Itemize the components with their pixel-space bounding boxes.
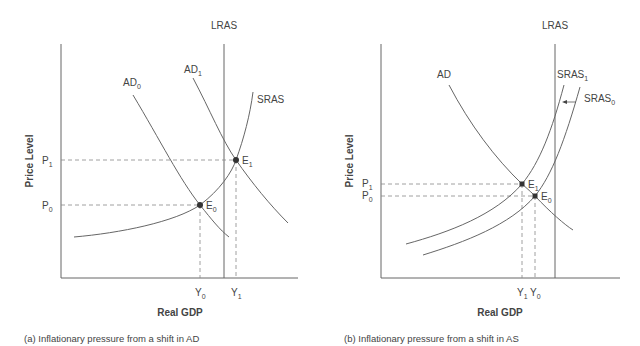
y1-tick-a: Y1 — [231, 287, 242, 300]
panel-a: LRAS AD0 AD1 SRAS E1 E0 P1 P0 Y0 Y1 Real… — [24, 20, 298, 318]
lras-label-a: LRAS — [211, 20, 237, 31]
caption-b: (b) Inflationary pressure from a shift i… — [344, 333, 519, 344]
e1-point-a — [233, 157, 239, 163]
shift-arrow-icon — [562, 100, 567, 104]
x-axis-title-a: Real GDP — [157, 307, 203, 318]
y-axis-title-b: Price Level — [344, 134, 355, 187]
e1-point-b — [520, 182, 525, 187]
caption-a: (a) Inflationary pressure from a shift i… — [24, 333, 199, 344]
sras-label-a: SRAS — [257, 94, 285, 105]
p0-tick-b: P0 — [362, 190, 373, 203]
sras1-curve-b — [406, 85, 564, 244]
ad0-label: AD0 — [123, 77, 141, 90]
x-axis-title-b: Real GDP — [477, 307, 523, 318]
e1-label-b: E1 — [528, 179, 539, 192]
panel-b: LRAS AD SRAS1 SRAS0 E1 E0 P1 P0 Y1 Y0 Re… — [344, 20, 620, 318]
sras-curve-a — [74, 92, 253, 237]
e0-point-b — [533, 194, 538, 199]
sras0-label: SRAS0 — [584, 93, 615, 106]
p0-tick-a: P0 — [42, 200, 53, 213]
y0-tick-b: Y0 — [530, 287, 541, 300]
lras-label-b: LRAS — [542, 20, 568, 31]
y1-tick-b: Y1 — [517, 287, 528, 300]
y0-tick-a: Y0 — [195, 287, 206, 300]
e0-point-a — [197, 202, 203, 208]
p1-tick-a: P1 — [42, 155, 53, 168]
e0-label-b: E0 — [541, 191, 552, 204]
e0-label-a: E0 — [206, 200, 217, 213]
ad1-label: AD1 — [184, 64, 202, 77]
y-axis-title-a: Price Level — [24, 134, 35, 187]
diagram-canvas: LRAS AD0 AD1 SRAS E1 E0 P1 P0 Y0 Y1 Real… — [0, 0, 640, 346]
sras1-label: SRAS1 — [557, 69, 588, 82]
e1-label-a: E1 — [242, 155, 253, 168]
ad-curve-b — [449, 85, 573, 230]
ad0-curve-a — [133, 95, 229, 237]
ad-label-b: AD — [437, 69, 451, 80]
